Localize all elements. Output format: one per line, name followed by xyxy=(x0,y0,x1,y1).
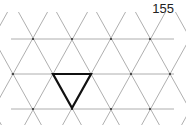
diagonal-line xyxy=(0,12,41,125)
lattice-vertex xyxy=(169,73,171,75)
lattice-vertex xyxy=(130,73,132,75)
lattice-vertex xyxy=(149,108,151,110)
lattice-vertex xyxy=(12,73,14,75)
triangular-lattice-diagram xyxy=(0,0,186,137)
diagonal-line xyxy=(142,12,186,125)
lattice-figure: 155 xyxy=(0,0,186,137)
lattice-vertex xyxy=(32,108,34,110)
lattice-lines xyxy=(0,12,186,125)
lattice-vertex xyxy=(149,38,151,40)
lattice-vertex xyxy=(110,108,112,110)
diagonal-line xyxy=(0,12,8,125)
highlighted-triangle xyxy=(53,74,91,108)
diagonal-line xyxy=(25,12,88,125)
diagonal-line xyxy=(103,12,166,125)
diagonal-line xyxy=(0,12,48,125)
diagonal-line xyxy=(135,12,186,125)
lattice-vertex xyxy=(71,38,73,40)
lattice-vertex xyxy=(110,38,112,40)
diagonal-line xyxy=(56,12,119,125)
diagonal-line xyxy=(175,12,186,125)
diagonal-line xyxy=(0,12,1,125)
lattice-vertex xyxy=(32,38,34,40)
